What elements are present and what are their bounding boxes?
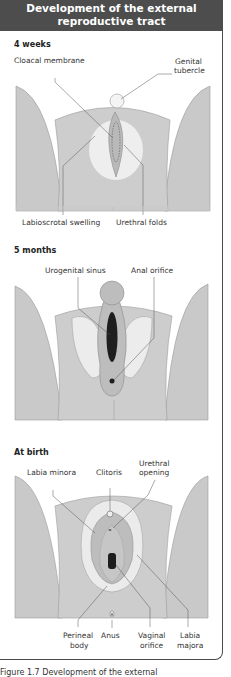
label-clitoris: Clitoris [96,468,122,477]
diagram-5-months [15,277,208,420]
stage-title-4-weeks: 4 weeks [14,40,51,49]
label-labia-minora: Labia minora [27,468,76,477]
figure-caption: Figure 1.7 Development of the external [0,668,157,677]
diagram-illustrations [0,0,223,660]
label-anal-orifice: Anal orifice [131,266,173,275]
label-labia-majora-1: Labia [180,631,200,640]
label-anus: Anus [101,631,120,640]
label-cloacal-membrane: Cloacal membrane [14,56,85,65]
diagram-at-birth [15,475,208,628]
label-genital-tubercle-2: tubercle [174,66,205,75]
label-vaginal-orifice-2: orifice [140,641,163,650]
figure-panel: Development of the external reproductive… [0,0,223,660]
label-urethral-folds: Urethral folds [116,218,167,227]
label-urethral-opening-2: opening [139,468,169,477]
label-urethral-opening-1: Urethral [139,459,169,468]
stage-title-5-months: 5 months [14,246,56,255]
stage-title-at-birth: At birth [14,448,49,457]
label-urogenital-sinus: Urogenital sinus [45,266,106,275]
label-vaginal-orifice-1: Vaginal [138,631,165,640]
label-labioscrotal-swelling: Labioscrotal swelling [22,218,100,227]
label-genital-tubercle-1: Genital [175,57,202,66]
label-labia-majora-2: majora [177,641,203,650]
diagram-4-weeks [16,74,210,215]
label-perineal-body-1: Perineal [63,631,93,640]
label-perineal-body-2: body [70,641,89,650]
